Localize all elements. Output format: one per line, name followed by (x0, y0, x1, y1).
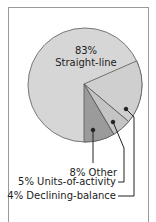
label-straight-name: Straight-line (45, 57, 127, 69)
label-declining: 4% Declining-balance (7, 190, 116, 202)
label-units: 5% Units-of-activity (18, 176, 116, 188)
label-straight-pct: 83% (45, 45, 127, 57)
pie-chart (0, 0, 156, 222)
